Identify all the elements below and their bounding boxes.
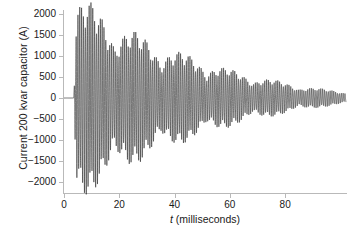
waveform-path [64,3,346,195]
chart-figure: Current 200 kvar capacitor (A) t (millis… [0,0,356,236]
waveform-series [64,3,346,195]
waveform-plot [0,0,356,236]
